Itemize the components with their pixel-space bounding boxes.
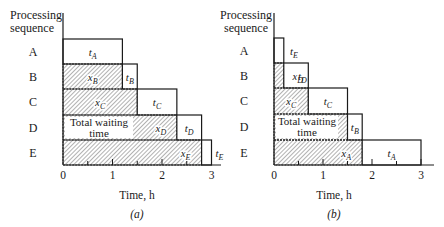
row-label: B: [240, 69, 248, 83]
x-tick-label: 0: [271, 169, 277, 181]
y-axis-label-line2: sequence: [10, 21, 54, 35]
row-e: xEtE: [63, 140, 224, 165]
y-axis-label-line1: Processing: [220, 8, 272, 22]
row-label: A: [240, 44, 249, 58]
row-label: A: [29, 45, 38, 59]
processing-time-label: tE: [216, 147, 224, 162]
processing-bar: [274, 38, 284, 63]
row-labels: ABCDE: [240, 44, 249, 160]
x-tick-label: 3: [418, 169, 424, 181]
panel-caption: (b): [327, 208, 341, 221]
total-waiting-time-annotation: Total waitingtime: [276, 115, 338, 138]
processing-bar: [202, 140, 212, 165]
row-label: C: [29, 95, 37, 109]
waiting-bar: [274, 63, 284, 88]
row-b: xBtB: [63, 64, 137, 89]
row-b: xDtD: [274, 63, 308, 88]
x-axis-label: Time, h: [119, 189, 155, 202]
x-tick-label: 0: [60, 169, 66, 181]
y-axis-label-line1: Processing: [10, 8, 62, 22]
row-labels: ABCDE: [29, 45, 38, 160]
x-tick-label: 3: [209, 169, 215, 181]
row-c: xCtC: [274, 88, 348, 114]
x-tick-label: 1: [320, 169, 326, 181]
processing-time-label: tE: [290, 45, 298, 60]
svg-text:time: time: [297, 126, 317, 138]
bars-group: tExDtDxCtCxBtBxAtATotal waitingtime: [274, 38, 421, 165]
diagram-canvas: Processing sequence tAxBtBxCtCxDtDxEtETo…: [0, 0, 444, 227]
panel-b-gantt: Processing sequence tExDtDxCtCxBtBxAtATo…: [220, 8, 434, 221]
bars-group: tAxBtBxCtCxDtDxEtETotal waitingtime: [63, 39, 224, 165]
row-c: xCtC: [63, 89, 177, 115]
y-axis-label-line2: sequence: [224, 21, 268, 35]
row-label: D: [240, 120, 249, 134]
row-label: D: [29, 121, 38, 135]
panel-a-gantt: Processing sequence tAxBtBxCtCxDtDxEtETo…: [10, 8, 224, 221]
panel-caption: (a): [130, 208, 144, 221]
row-a: tE: [274, 38, 298, 63]
svg-text:time: time: [89, 127, 109, 139]
row-label: E: [240, 146, 247, 160]
total-waiting-time-annotation: Total waitingtime: [65, 116, 133, 139]
row-a: tA: [63, 39, 122, 64]
row-label: E: [29, 146, 36, 160]
x-tick-label: 2: [159, 169, 165, 181]
row-label: C: [240, 94, 248, 108]
x-tick-label: 2: [369, 169, 375, 181]
x-axis-label: Time, h: [316, 189, 352, 202]
row-label: B: [29, 70, 37, 84]
x-tick-label: 1: [110, 169, 116, 181]
